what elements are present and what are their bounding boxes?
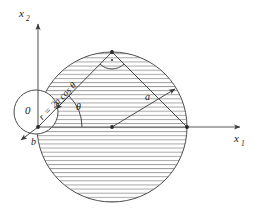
polar-circle-diagram: x 2 x 1 0 b θ a r = 2a cos θ [0,0,257,208]
right-edge-point [185,125,189,129]
origin-label: 0 [25,104,31,116]
y-axis-label: x [18,7,24,19]
small-circle-radius-label: b [31,136,36,147]
diagram-canvas: x 2 x 1 0 b θ a r = 2a cos θ [0,0,257,208]
x-axis-label: x [233,132,239,144]
angle-label: θ [76,101,81,112]
right-angle-dot [111,59,113,61]
origin-point [36,125,40,129]
center-point [110,125,114,129]
radius-label: a [145,91,150,102]
top-vertex-point [110,50,114,54]
x-axis-label-subscript: 1 [241,139,245,148]
y-axis-label-subscript: 2 [26,14,30,23]
